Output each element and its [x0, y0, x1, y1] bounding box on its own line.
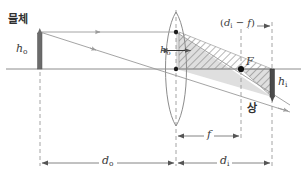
object-distance-symbol: d: [102, 154, 109, 167]
object-distance-label: do: [99, 155, 117, 166]
image-arrow: [270, 69, 275, 102]
optics-ray-diagram: 물체 상 ho ho hi F do di f (di − f): [0, 0, 307, 186]
image-height-label: hi: [278, 76, 287, 87]
di-minus-f-label: (di − f): [218, 18, 257, 28]
di-minus-f-operator: −: [233, 17, 248, 28]
di-minus-f-close-paren: ): [251, 17, 255, 28]
object-height-label: ho: [16, 43, 28, 54]
diagram-canvas: [0, 0, 307, 186]
object-height-subscript: o: [23, 47, 28, 56]
focal-point: [238, 66, 244, 72]
object-height-at-lens-subscript: o: [166, 49, 170, 57]
object-height-at-lens-label: ho: [160, 45, 171, 55]
focal-length-label: f: [204, 129, 214, 140]
image-label: 상: [247, 103, 257, 114]
object-label: 물체: [8, 14, 28, 25]
dashed-guides: [40, 10, 272, 166]
di-minus-f-subscript: i: [230, 22, 232, 30]
image-distance-symbol: d: [220, 154, 227, 167]
image-distance-label: di: [217, 155, 232, 166]
object-distance-subscript: o: [109, 159, 114, 168]
object-arrow: [37, 28, 42, 69]
focal-point-label: F: [246, 56, 254, 67]
